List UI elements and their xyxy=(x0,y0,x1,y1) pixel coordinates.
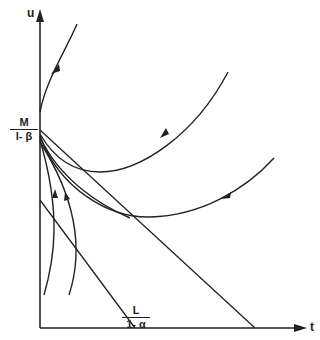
arrow-head-icon xyxy=(160,128,169,138)
arrow-up-icon xyxy=(36,9,44,22)
horizontal-axis xyxy=(40,324,307,332)
phase-diagram xyxy=(0,0,320,340)
vertical-axis xyxy=(36,9,44,328)
upper-u-trajectory xyxy=(40,72,228,172)
l-over-1-minus-alpha-label: L 1- α xyxy=(122,304,150,331)
arrow-right-icon xyxy=(294,324,307,332)
beta-denominator: l- β xyxy=(10,130,38,143)
alpha-denominator: 1- α xyxy=(122,318,150,331)
m-over-1-minus-beta-label: M l- β xyxy=(10,116,38,143)
lower-u-trajectory xyxy=(40,136,274,217)
m-numerator: M xyxy=(10,116,38,130)
t-axis-label: t xyxy=(310,320,314,334)
upper-isocline xyxy=(40,130,255,328)
arrow-head-icon xyxy=(52,189,58,198)
arrow-head-icon xyxy=(64,192,70,201)
u-axis-label: u xyxy=(27,6,34,20)
arrow-head-icon xyxy=(51,64,60,74)
l-numerator: L xyxy=(122,304,150,318)
